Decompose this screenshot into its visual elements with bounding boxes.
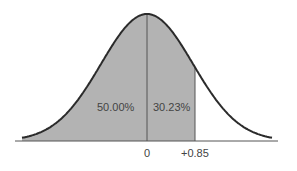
- left-area-label: 50.00%: [97, 101, 134, 113]
- tick-z-label: +0.85: [181, 147, 209, 159]
- shaded-area: [22, 14, 195, 141]
- tick-zero-label: 0: [144, 147, 150, 159]
- normal-distribution-chart: [0, 0, 297, 171]
- mid-area-label: 30.23%: [153, 101, 190, 113]
